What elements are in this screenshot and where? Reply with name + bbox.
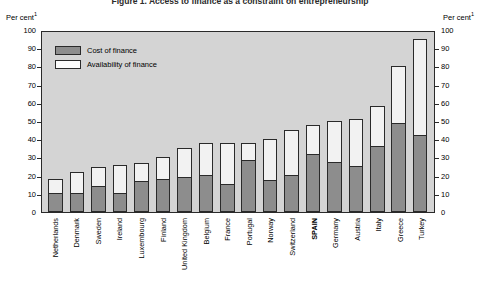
segment-availability-of-finance <box>200 144 213 175</box>
segment-cost-of-finance <box>371 146 384 211</box>
x-axis-label-netherlands: Netherlands <box>50 218 59 257</box>
y-axis-right-tick-30: 30 <box>441 154 465 162</box>
x-axis-label-sweden: Sweden <box>93 218 102 244</box>
legend-label-availability-of-finance: Availability of finance <box>87 59 157 70</box>
segment-cost-of-finance <box>135 181 148 211</box>
bar-united-kingdom[interactable] <box>177 148 192 212</box>
y-axis-left-unit-text: Per cent <box>6 13 34 22</box>
bar-slot <box>281 32 302 212</box>
bar-luxembourg[interactable] <box>134 163 149 212</box>
chart-figure: Figure 1. Access to finance as a constra… <box>0 0 480 303</box>
segment-availability-of-finance <box>221 144 234 184</box>
x-label-slot: Luxembourg <box>130 216 152 301</box>
x-label-slot: Netherlands <box>44 216 66 301</box>
bar-slot <box>174 32 195 212</box>
bar-france[interactable] <box>220 143 235 212</box>
legend-swatch-cost-of-finance <box>55 46 81 55</box>
legend-label-cost-of-finance: Cost of finance <box>87 45 137 56</box>
bar-sweden[interactable] <box>91 167 106 213</box>
x-label-slot: Italy <box>367 216 389 301</box>
segment-availability-of-finance <box>328 122 341 162</box>
y-axis-right-tick-100: 100 <box>441 27 465 35</box>
legend-swatch-availability-of-finance <box>55 60 81 69</box>
x-axis-label-denmark: Denmark <box>72 218 81 248</box>
x-label-slot: Ireland <box>109 216 131 301</box>
y-axis-right-tick-90: 90 <box>441 45 465 53</box>
x-axis-label-turkey: Turkey <box>417 218 426 240</box>
y-axis-left-tick-50: 50 <box>14 118 36 126</box>
bar-denmark[interactable] <box>70 172 85 212</box>
segment-availability-of-finance <box>49 180 62 193</box>
figure-title: Figure 1. Access to finance as a constra… <box>0 0 480 6</box>
segment-cost-of-finance <box>328 162 341 211</box>
y-axis-left-tick-10: 10 <box>14 191 36 199</box>
bar-slot <box>367 32 388 212</box>
segment-cost-of-finance <box>264 180 277 211</box>
segment-cost-of-finance <box>242 160 255 211</box>
y-axis-right-tickmark <box>435 195 439 196</box>
segment-availability-of-finance <box>135 164 148 181</box>
y-axis-right-tickmark <box>435 49 439 50</box>
y-axis-right-tickmark <box>435 122 439 123</box>
x-axis-label-united-kingdom: United Kingdom <box>180 218 189 270</box>
x-label-slot: Germany <box>324 216 346 301</box>
x-axis-label-finland: Finland <box>158 218 167 242</box>
segment-availability-of-finance <box>92 168 105 187</box>
x-label-slot: Norway <box>260 216 282 301</box>
x-axis-label-greece: Greece <box>395 218 404 242</box>
bar-norway[interactable] <box>263 139 278 212</box>
segment-cost-of-finance <box>178 177 191 211</box>
x-axis-label-austria: Austria <box>352 218 361 241</box>
x-label-slot: Turkey <box>411 216 433 301</box>
x-axis-labels: NetherlandsDenmarkSwedenIrelandLuxembour… <box>41 216 435 301</box>
segment-cost-of-finance <box>221 184 234 211</box>
y-axis-right-tickmark <box>435 67 439 68</box>
x-axis-label-italy: Italy <box>374 218 383 231</box>
bar-slot <box>388 32 409 212</box>
y-axis-left-tick-100: 100 <box>14 27 36 35</box>
y-axis-right-tick-40: 40 <box>441 136 465 144</box>
x-axis-label-france: France <box>223 218 232 241</box>
y-axis-right-unit: Per cent1 <box>443 11 474 22</box>
bar-ireland[interactable] <box>113 165 128 212</box>
bar-slot <box>345 32 366 212</box>
bar-turkey[interactable] <box>413 39 428 212</box>
x-label-slot: United Kingdom <box>173 216 195 301</box>
y-axis-right-tickmark <box>435 140 439 141</box>
segment-availability-of-finance <box>264 140 277 180</box>
y-axis-right-tick-20: 20 <box>441 173 465 181</box>
y-axis-left-tick-40: 40 <box>14 136 36 144</box>
bar-austria[interactable] <box>349 119 364 212</box>
y-axis-right-unit-footnote: 1 <box>471 11 474 17</box>
segment-cost-of-finance <box>114 193 127 211</box>
x-label-slot: Switzerland <box>281 216 303 301</box>
segment-availability-of-finance <box>392 67 405 122</box>
x-axis-label-norway: Norway <box>266 218 275 243</box>
y-axis-right-tick-10: 10 <box>441 191 465 199</box>
y-axis-right-tick-70: 70 <box>441 82 465 90</box>
bar-switzerland[interactable] <box>284 130 299 212</box>
bar-spain[interactable] <box>306 125 321 212</box>
bar-belgium[interactable] <box>199 143 214 212</box>
x-axis-label-portugal: Portugal <box>244 218 253 245</box>
bar-slot <box>217 32 238 212</box>
bar-italy[interactable] <box>370 106 385 212</box>
segment-availability-of-finance <box>242 144 255 160</box>
legend-item-availability-of-finance[interactable]: Availability of finance <box>55 58 157 70</box>
legend-item-cost-of-finance[interactable]: Cost of finance <box>55 44 157 56</box>
y-axis-left-unit-footnote: 1 <box>34 11 37 17</box>
x-axis-label-spain: SPAIN <box>309 218 318 240</box>
x-label-slot: SPAIN <box>303 216 325 301</box>
bar-slot <box>409 32 430 212</box>
segment-availability-of-finance <box>71 173 84 193</box>
y-axis-right-tickmark <box>435 177 439 178</box>
bar-finland[interactable] <box>156 157 171 212</box>
bar-greece[interactable] <box>391 66 406 212</box>
x-label-slot: Greece <box>389 216 411 301</box>
bar-germany[interactable] <box>327 121 342 212</box>
segment-cost-of-finance <box>392 123 405 211</box>
bar-netherlands[interactable] <box>48 179 63 212</box>
y-axis-left-tick-70: 70 <box>14 82 36 90</box>
bar-portugal[interactable] <box>241 143 256 212</box>
segment-cost-of-finance <box>49 193 62 211</box>
